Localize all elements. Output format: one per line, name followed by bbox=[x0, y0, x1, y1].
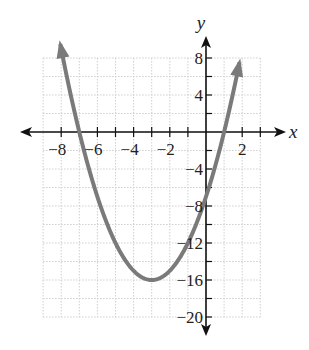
y-tick-label: −12 bbox=[176, 234, 203, 253]
x-tick-label: −6 bbox=[84, 140, 102, 159]
x-tick-label: −4 bbox=[121, 140, 140, 159]
y-tick-label: 4 bbox=[195, 86, 204, 105]
parabola-chart: −8−6−4−2284−4−8−12−16−20xy bbox=[0, 0, 309, 350]
curve-left-arrow-icon bbox=[57, 40, 70, 59]
x-tick-label: 2 bbox=[238, 140, 247, 159]
x-tick-label: −2 bbox=[157, 140, 175, 159]
y-tick-label: −4 bbox=[185, 160, 204, 179]
y-tick-label: −8 bbox=[185, 197, 203, 216]
y-tick-label: −20 bbox=[176, 308, 203, 327]
curve-right-arrow-icon bbox=[230, 58, 243, 77]
y-axis-label: y bbox=[195, 12, 206, 33]
y-tick-label: 8 bbox=[195, 49, 204, 68]
x-tick-label: −8 bbox=[48, 140, 66, 159]
parabola-path bbox=[60, 44, 239, 280]
y-tick-label: −16 bbox=[176, 271, 203, 290]
axes bbox=[20, 36, 286, 336]
x-axis-label: x bbox=[288, 121, 298, 142]
